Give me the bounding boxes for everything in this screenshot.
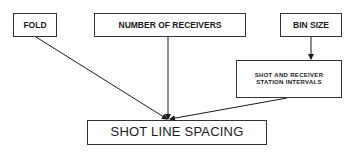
node-number-of-receivers: NUMBER OF RECEIVERS <box>94 13 246 37</box>
node-station-intervals: SHOT AND RECEIVER STATION INTERVALS <box>236 60 342 98</box>
node-fold-label: FOLD <box>23 20 46 31</box>
node-fold: FOLD <box>13 13 57 37</box>
node-intervals-line2: STATION INTERVALS <box>256 79 322 87</box>
node-bin-size: BIN SIZE <box>280 13 342 37</box>
node-shot-line-spacing: SHOT LINE SPACING <box>87 120 267 145</box>
node-bin-size-label: BIN SIZE <box>293 20 329 31</box>
node-spacing-label: SHOT LINE SPACING <box>111 124 244 140</box>
edge-intervals-to-spacing <box>170 98 287 119</box>
edge-fold-to-spacing <box>36 37 167 119</box>
node-intervals-line1: SHOT AND RECEIVER <box>255 72 324 80</box>
node-receivers-label: NUMBER OF RECEIVERS <box>119 20 222 31</box>
